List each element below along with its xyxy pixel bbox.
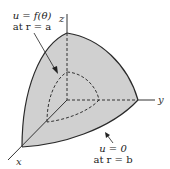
outer-annotation-line1: u = 0: [99, 143, 127, 154]
inner-annotation-line1: u = f(θ): [13, 10, 52, 21]
outer-annotation-arrowhead: [105, 132, 110, 138]
x-axis-label: x: [16, 156, 22, 167]
outer-annotation-line2: at r = b: [93, 154, 132, 165]
y-axis-label: y: [157, 94, 164, 105]
outer-region-fill: [22, 33, 138, 147]
inner-annotation-line2: at r = a: [13, 21, 52, 32]
z-axis-label: z: [58, 13, 65, 24]
spherical-shell-diagram: z y x u = f(θ) at r = a u = 0 at r = b: [0, 0, 170, 169]
